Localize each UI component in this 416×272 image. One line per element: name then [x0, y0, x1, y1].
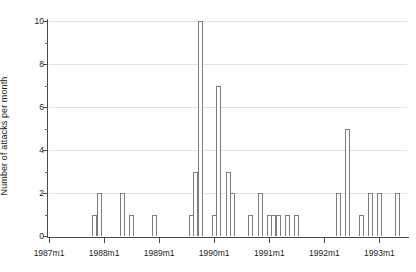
y-tick-minor — [45, 215, 48, 216]
x-tick-label: 1987m1 — [34, 248, 65, 258]
bar — [230, 193, 235, 236]
x-tick-mark — [159, 238, 160, 243]
bar — [285, 215, 290, 237]
x-tick-label: 1988m1 — [89, 248, 120, 258]
y-tick-mark — [43, 236, 48, 237]
x-tick-mark — [214, 238, 215, 243]
y-tick-mark — [43, 193, 48, 194]
x-tick-label: 1990m1 — [199, 248, 230, 258]
y-tick-mark — [43, 64, 48, 65]
bar — [120, 193, 125, 236]
bar — [152, 215, 157, 237]
bar — [368, 193, 373, 236]
x-tick-mark — [49, 238, 50, 243]
x-tick-label: 1989m1 — [144, 248, 175, 258]
x-tick-mark — [104, 238, 105, 243]
gridline — [49, 21, 407, 22]
x-tick-label: 1991m1 — [254, 248, 285, 258]
gridline — [49, 150, 407, 151]
x-tick-label: 1992m1 — [309, 248, 340, 258]
bar — [198, 21, 203, 236]
bar — [258, 193, 263, 236]
bar — [248, 215, 253, 237]
x-tick-mark — [269, 238, 270, 243]
y-tick-mark — [43, 21, 48, 22]
x-tick-mark — [379, 238, 380, 243]
y-tick-minor — [45, 43, 48, 44]
bar — [377, 193, 382, 236]
bar — [294, 215, 299, 237]
bar — [345, 129, 350, 237]
plot-area — [49, 21, 407, 236]
y-tick-minor — [45, 129, 48, 130]
y-tick-mark — [43, 150, 48, 151]
bar — [395, 193, 400, 236]
bar — [336, 193, 341, 236]
y-axis-tick-labels: 0246810 — [0, 0, 44, 272]
gridline — [49, 64, 407, 65]
x-tick-label: 1993m1 — [364, 248, 395, 258]
y-tick-mark — [43, 107, 48, 108]
x-tick-mark — [324, 238, 325, 243]
x-axis-line — [47, 237, 409, 238]
y-tick-minor — [45, 86, 48, 87]
gridline — [49, 107, 407, 108]
attacks-per-month-bar-chart: Number of attacks per month 0246810 1987… — [0, 0, 416, 272]
bar — [359, 215, 364, 237]
bar — [97, 193, 102, 236]
bar — [276, 215, 281, 237]
bar — [216, 86, 221, 237]
y-tick-minor — [45, 172, 48, 173]
bar — [129, 215, 134, 237]
